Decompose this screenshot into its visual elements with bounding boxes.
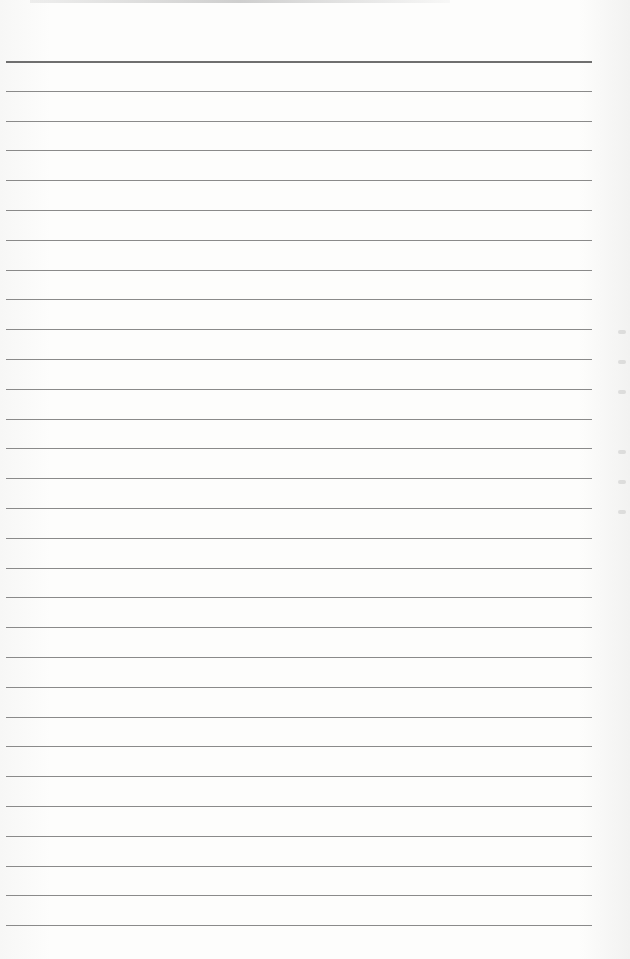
ruled-line	[6, 121, 592, 122]
ruled-line	[6, 150, 592, 151]
ruled-line	[6, 895, 592, 896]
ruled-line	[6, 210, 592, 211]
ruled-line	[6, 597, 592, 598]
ruled-line	[6, 299, 592, 300]
lined-paper-page	[0, 0, 630, 959]
ruled-line	[6, 627, 592, 628]
ruled-line	[6, 91, 592, 92]
ruled-line	[6, 270, 592, 271]
ruled-line	[6, 180, 592, 181]
ruled-line	[6, 836, 592, 837]
ruled-line	[6, 866, 592, 867]
bleed-mark	[618, 360, 626, 364]
bleed-mark	[618, 480, 626, 484]
ruled-line	[6, 687, 592, 688]
bleed-mark	[618, 390, 626, 394]
bleed-mark	[618, 330, 626, 334]
ruled-line	[6, 925, 592, 926]
scan-edge-shadow	[30, 0, 450, 3]
ruled-line	[6, 806, 592, 807]
ruled-line	[6, 717, 592, 718]
ruled-line	[6, 478, 592, 479]
ruled-line	[6, 61, 592, 63]
ruled-line	[6, 419, 592, 420]
ruled-line	[6, 448, 592, 449]
ruled-line	[6, 389, 592, 390]
ruled-line	[6, 746, 592, 747]
bleed-mark	[618, 510, 626, 514]
ruled-line	[6, 776, 592, 777]
bleed-mark	[618, 450, 626, 454]
ruled-line	[6, 657, 592, 658]
ruled-line	[6, 568, 592, 569]
ruled-line	[6, 359, 592, 360]
ruled-line	[6, 508, 592, 509]
ruled-line	[6, 538, 592, 539]
ruled-line	[6, 240, 592, 241]
ruled-line	[6, 329, 592, 330]
